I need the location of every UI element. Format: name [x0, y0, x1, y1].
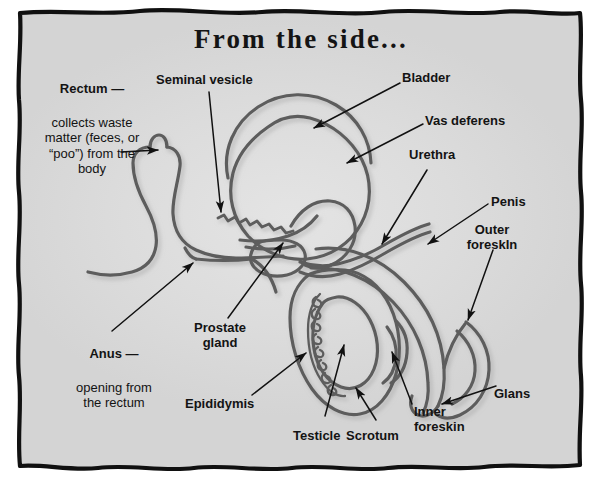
label-urethra: Urethra: [409, 147, 455, 162]
label-rectum: Rectum — collects waste matter (feces, o…: [28, 62, 156, 195]
label-penis: Penis: [491, 194, 526, 209]
leader-epididymis: [252, 353, 306, 395]
label-anus-head: Anus —: [60, 346, 168, 361]
label-rectum-head: Rectum —: [28, 81, 156, 96]
leader-urethra: [382, 170, 427, 244]
leader-glans: [442, 386, 496, 404]
label-outer-foreskin: Outer foreskIn: [454, 222, 530, 253]
leader-scrotum: [356, 388, 376, 420]
label-vas-deferens: Vas deferens: [425, 113, 505, 128]
label-anus: Anus — opening from the rectum: [60, 327, 168, 430]
label-seminal-vesicle: Seminal vesicle: [156, 72, 253, 87]
label-epididymis: Epididymis: [185, 396, 254, 411]
label-anus-body: opening from the rectum: [60, 380, 168, 411]
label-glans: Glans: [494, 386, 530, 401]
label-scrotum: Scrotum: [346, 428, 399, 443]
label-inner-foreskin: Inner foreskin: [414, 404, 465, 435]
label-rectum-body: collects waste matter (feces, or “poo”) …: [28, 115, 156, 176]
page-title: From the side...: [0, 24, 602, 55]
leader-seminal-vesicle: [209, 92, 221, 212]
label-prostate-gland: Prostate gland: [178, 320, 262, 351]
label-bladder: Bladder: [402, 70, 450, 85]
leader-prostate: [228, 243, 283, 318]
label-testicle: Testicle: [293, 428, 340, 443]
leader-testicle: [325, 345, 344, 416]
leader-inner-foreskin: [392, 352, 412, 404]
leader-outer-foreskin: [468, 250, 493, 320]
diagram-page: From the side...: [0, 0, 602, 489]
leader-bladder: [314, 83, 400, 128]
